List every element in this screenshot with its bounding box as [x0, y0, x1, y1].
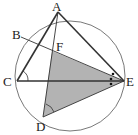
label-e: E — [126, 75, 134, 88]
angle-mark-dot — [112, 73, 115, 76]
label-d: D — [36, 120, 45, 133]
label-a: A — [52, 0, 61, 13]
geometry-figure — [0, 0, 138, 135]
label-f: F — [56, 40, 63, 53]
angle-mark-dot — [110, 83, 113, 86]
angle-mark-dot — [110, 78, 113, 81]
label-b: B — [12, 28, 21, 41]
label-c: C — [3, 75, 12, 88]
angle-c-arc — [23, 71, 28, 81]
